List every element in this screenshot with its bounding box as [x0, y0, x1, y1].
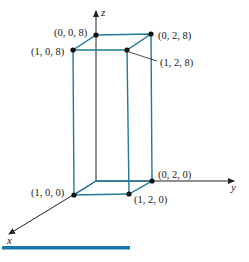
point-1-0-8	[70, 47, 75, 52]
bottom-face	[74, 181, 152, 195]
point-1-0-0	[71, 192, 76, 197]
label-0-0-8: (0, 0, 8)	[54, 27, 88, 39]
y-axis-label: y	[230, 181, 236, 193]
edge-front-left	[73, 50, 74, 195]
edge-back-right	[151, 34, 152, 181]
z-axis-label: z	[100, 6, 106, 18]
label-1-2-8: (1, 2, 8)	[160, 57, 194, 69]
point-0-2-8	[148, 31, 153, 36]
point-0-2-0	[149, 178, 154, 183]
label-1-2-0: (1, 2, 0)	[134, 194, 168, 206]
label-1-0-0: (1, 0, 0)	[31, 187, 65, 199]
point-1-2-8	[124, 47, 129, 52]
x-axis-label: x	[6, 234, 12, 246]
box-edges	[73, 34, 152, 195]
point-0-0-8	[93, 32, 98, 37]
axes	[9, 11, 234, 234]
point-1-2-0	[126, 191, 131, 196]
box-diagram: z y x (0, 0, 8) (0, 2, 8) (1, 0, 8) (1, …	[0, 0, 249, 262]
label-0-2-8: (0, 2, 8)	[158, 30, 192, 42]
edge-front-right	[127, 50, 129, 194]
label-0-2-0: (0, 2, 0)	[158, 169, 192, 181]
label-1-0-8: (1, 0, 8)	[31, 46, 65, 58]
bottom-accent-bar	[2, 246, 130, 250]
leader-line-1-2-8	[129, 52, 157, 61]
